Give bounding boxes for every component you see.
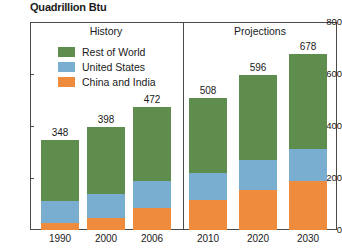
bar-segment (41, 223, 79, 230)
bar-value-label: 678 (289, 41, 327, 52)
bar-segment (289, 54, 327, 150)
x-tick-label: 2010 (183, 233, 233, 244)
legend-swatch-united-states (58, 62, 75, 72)
stacked-bar-chart: Quadrillion Btu 0200400600800 HistoryPro… (0, 0, 342, 252)
bar-stack (239, 75, 277, 230)
legend-swatch-rest-of-world (58, 47, 75, 57)
bar-segment (87, 127, 125, 194)
x-tick-label: 2006 (127, 233, 177, 244)
legend-swatch-china-and-india (58, 77, 75, 87)
legend-item-china-and-india: China and India (58, 75, 156, 89)
x-tick-label: 2030 (283, 233, 333, 244)
bar-segment (41, 201, 79, 223)
bar-value-label: 596 (239, 62, 277, 73)
legend-label-united-states: United States (82, 62, 145, 73)
legend-item-united-states: United States (58, 60, 156, 74)
y-tick-mark (30, 74, 34, 75)
bar-segment (239, 160, 277, 190)
bar-segment (41, 140, 79, 202)
bar-segment (189, 98, 227, 173)
bar-value-label: 472 (133, 94, 171, 105)
x-tick-label: 2020 (233, 233, 283, 244)
bar-segment (289, 181, 327, 230)
bar-stack (87, 127, 125, 230)
legend-item-rest-of-world: Rest of World (58, 45, 156, 59)
y-tick-mark (30, 178, 34, 179)
legend-label-rest-of-world: Rest of World (82, 47, 145, 58)
x-tick-label: 1990 (35, 233, 85, 244)
bar-segment (133, 181, 171, 208)
bar-group[interactable] (289, 54, 327, 230)
bar-value-label: 398 (87, 114, 125, 125)
bar-segment (189, 173, 227, 200)
bar-segment (239, 190, 277, 230)
bar-stack (189, 98, 227, 230)
panel-label-history: History (56, 25, 156, 37)
bar-segment (87, 194, 125, 219)
bar-group[interactable] (41, 140, 79, 230)
y-tick-mark (30, 126, 34, 127)
chart-legend: Rest of World United States China and In… (58, 45, 156, 90)
chart-title: Quadrillion Btu (30, 1, 106, 13)
panel-divider (183, 22, 184, 230)
bar-stack (289, 54, 327, 230)
x-tick-label: 2000 (81, 233, 131, 244)
bar-segment (133, 107, 171, 180)
bar-group[interactable] (239, 75, 277, 230)
legend-label-china-and-india: China and India (82, 77, 156, 88)
bar-segment (133, 208, 171, 230)
panel-label-projections: Projections (210, 25, 310, 37)
bar-stack (133, 107, 171, 230)
bar-segment (239, 75, 277, 160)
y-tick-label: 800 (316, 17, 342, 27)
bar-value-label: 348 (41, 127, 79, 138)
bar-segment (289, 149, 327, 180)
bar-group[interactable] (189, 98, 227, 230)
bar-group[interactable] (87, 127, 125, 230)
bar-segment (189, 200, 227, 230)
bar-segment (87, 218, 125, 230)
bar-group[interactable] (133, 107, 171, 230)
bar-value-label: 508 (189, 85, 227, 96)
bar-stack (41, 140, 79, 230)
